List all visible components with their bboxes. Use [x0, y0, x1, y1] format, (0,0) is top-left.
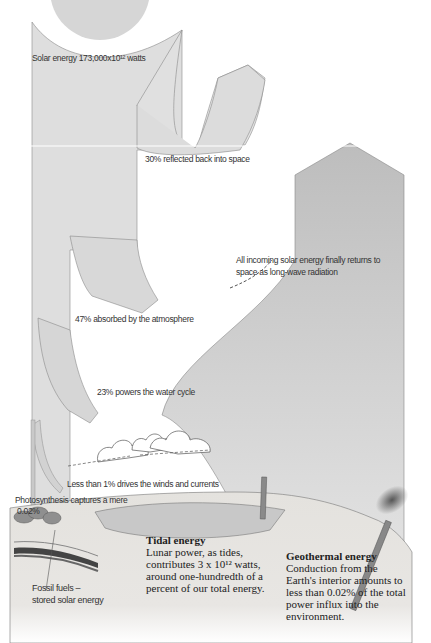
- tidal-callout: Tidal energy Lunar power, as tides, cont…: [146, 534, 265, 594]
- winds-label: Less than 1% drives the winds and curren…: [67, 479, 219, 490]
- absorbed-flow: [70, 236, 158, 313]
- absorbed-label: 47% absorbed by the atmosphere: [75, 314, 194, 325]
- returns-label-line2: space as long-wave radiation: [236, 267, 338, 278]
- sun-icon: [50, 0, 150, 40]
- tidal-title: Tidal energy: [146, 534, 265, 546]
- reflected-label: 30% reflected back into space: [145, 154, 250, 165]
- ocean-bowl: [95, 503, 285, 538]
- geothermal-title: Geothermal energy: [286, 550, 406, 562]
- water-cycle-label: 23% powers the water cycle: [97, 387, 195, 398]
- energy-diagram: Solar energy 173,000x10¹² watts 30% refl…: [0, 0, 431, 643]
- photosynthesis-label-line2: 0.02%: [17, 506, 40, 517]
- solar-input-label: Solar energy 173,000x10¹² watts: [32, 53, 146, 64]
- tidal-body: Lunar power, as tides, contributes 3 x 1…: [146, 546, 265, 594]
- photosynthesis-label-line1: Photosynthesis captures a mere: [15, 495, 127, 506]
- fossil-label-line1: Fossil fuels –: [32, 583, 80, 594]
- fossil-label-line2: stored solar energy: [32, 595, 103, 606]
- geothermal-body: Conduction from the Earth's interior amo…: [286, 562, 406, 622]
- geothermal-callout: Geothermal energy Conduction from the Ea…: [286, 550, 406, 622]
- returns-label-line1: All incoming solar energy finally return…: [236, 255, 380, 266]
